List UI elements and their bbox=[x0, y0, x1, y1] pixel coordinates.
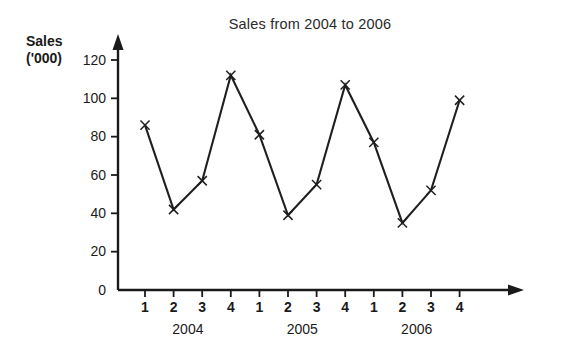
sales-data-markers bbox=[140, 71, 464, 228]
y-axis-arrow-icon bbox=[113, 34, 124, 50]
x-tick-label: 1 bbox=[141, 299, 149, 315]
x-tick-label: 3 bbox=[313, 299, 321, 315]
y-axis-ticks: 020406080100120 bbox=[83, 52, 118, 298]
x-axis-ticks: 123412341234 bbox=[141, 290, 464, 315]
sales-series-line bbox=[145, 75, 460, 223]
y-tick-label: 80 bbox=[90, 128, 106, 144]
x-tick-label: 4 bbox=[456, 299, 464, 315]
y-tick-label: 0 bbox=[98, 282, 106, 298]
x-tick-label: 1 bbox=[370, 299, 378, 315]
x-axis-group-label: 2006 bbox=[401, 321, 432, 337]
x-tick-label: 2 bbox=[399, 299, 407, 315]
y-tick-label: 40 bbox=[90, 205, 106, 221]
x-tick-label: 4 bbox=[341, 299, 349, 315]
x-axis-arrow-icon bbox=[508, 285, 524, 296]
y-tick-label: 100 bbox=[83, 90, 107, 106]
x-tick-label: 3 bbox=[427, 299, 435, 315]
y-tick-label: 120 bbox=[83, 52, 107, 68]
x-tick-label: 2 bbox=[170, 299, 178, 315]
x-axis-group-labels: 200420052006 bbox=[172, 321, 432, 337]
x-tick-label: 1 bbox=[256, 299, 264, 315]
data-point-marker-x-icon bbox=[283, 211, 292, 220]
x-tick-label: 2 bbox=[284, 299, 292, 315]
x-axis-group-label: 2004 bbox=[172, 321, 203, 337]
plot-area: 020406080100120 123412341234 20042005200… bbox=[0, 0, 572, 358]
y-tick-label: 20 bbox=[90, 243, 106, 259]
data-point-marker-x-icon bbox=[398, 218, 407, 227]
y-tick-label: 60 bbox=[90, 167, 106, 183]
x-tick-label: 3 bbox=[198, 299, 206, 315]
x-axis-group-label: 2005 bbox=[287, 321, 318, 337]
axes bbox=[113, 34, 525, 296]
data-point-marker-x-icon bbox=[255, 130, 264, 139]
data-point-marker-x-icon bbox=[369, 138, 378, 147]
x-tick-label: 4 bbox=[227, 299, 235, 315]
sales-line-chart: Sales from 2004 to 2006 Sales ('000) 020… bbox=[0, 0, 572, 358]
